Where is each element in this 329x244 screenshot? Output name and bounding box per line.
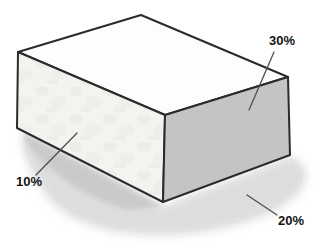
label-shadow-percent: 20% xyxy=(278,214,304,228)
label-right-face-percent: 30% xyxy=(269,34,295,48)
box-shadow-diagram: 30% 10% 20% xyxy=(0,0,329,244)
label-front-face-percent: 10% xyxy=(16,175,42,189)
